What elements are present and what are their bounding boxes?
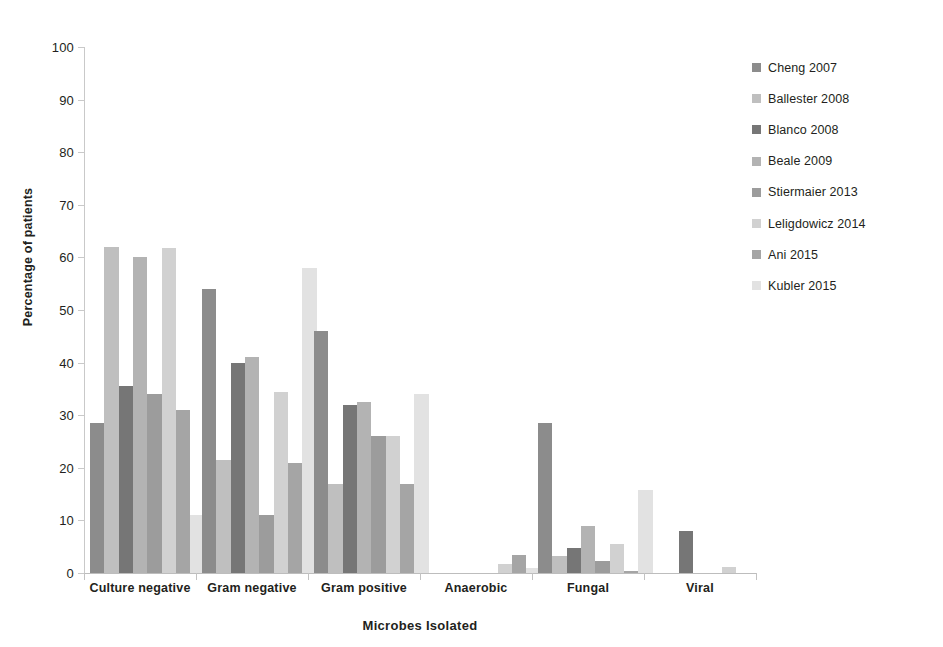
bar[interactable] [133,257,147,573]
legend-label: Beale 2009 [768,154,832,168]
x-axis-category-label: Gram negative [196,581,308,595]
bar[interactable] [274,392,288,573]
bar[interactable] [245,357,259,573]
bar-group: Gram negative [196,47,308,573]
bar[interactable] [202,289,216,573]
bar[interactable] [498,564,512,573]
bar-group: Anaerobic [420,47,532,573]
bar[interactable] [162,248,176,573]
bar[interactable] [610,544,624,573]
legend-label: Cheng 2007 [768,61,837,75]
legend-label: Kubler 2015 [768,279,837,293]
bar[interactable] [679,531,693,573]
bar[interactable] [90,423,104,573]
x-tick-mark [308,573,309,580]
x-axis-category-label: Culture negative [84,581,196,595]
bar[interactable] [314,331,328,573]
x-axis-category-label: Fungal [532,581,644,595]
bar[interactable] [104,247,118,573]
x-tick-mark [196,573,197,580]
bar[interactable] [400,484,414,573]
bar-group-bars [650,47,764,573]
bar[interactable] [119,386,133,573]
y-tick-label: 40 [28,357,74,370]
x-axis-category-label: Gram positive [308,581,420,595]
bar-group: Viral [644,47,756,573]
legend-item[interactable]: Kubler 2015 [752,270,937,301]
legend-item[interactable]: Leligdowicz 2014 [752,208,937,239]
y-tick-label: 10 [28,514,74,527]
legend-label: Blanco 2008 [768,123,839,137]
bar-chart: Percentage of patients Microbes Isolated… [0,0,943,647]
bar[interactable] [581,526,595,573]
legend-swatch-icon [752,250,761,259]
bar[interactable] [231,363,245,573]
bar[interactable] [552,556,566,573]
x-axis-title: Microbes Isolated [84,618,756,633]
x-tick-mark [420,573,421,580]
bar[interactable] [176,410,190,573]
bar[interactable] [386,436,400,573]
legend-swatch-icon [752,63,761,72]
y-tick-label: 70 [28,199,74,212]
legend-item[interactable]: Cheng 2007 [752,52,937,83]
legend-swatch-icon [752,281,761,290]
legend-label: Stiermaier 2013 [768,185,858,199]
x-axis-category-label: Anaerobic [420,581,532,595]
y-tick-label: 50 [28,304,74,317]
bar[interactable] [343,405,357,573]
bar[interactable] [512,555,526,573]
y-tick-label: 60 [28,251,74,264]
x-tick-mark [756,573,757,580]
bar[interactable] [538,423,552,573]
bar[interactable] [147,394,161,573]
bar[interactable] [259,515,273,573]
x-tick-mark [644,573,645,580]
legend-item[interactable]: Stiermaier 2013 [752,177,937,208]
y-tick-label: 80 [28,146,74,159]
bar-group-bars [90,47,204,573]
bar-group-bars [202,47,316,573]
x-tick-mark [532,573,533,580]
legend-swatch-icon [752,125,761,134]
plot-area: Culture negativeGram negativeGram positi… [84,47,756,573]
bar[interactable] [722,567,736,573]
bar[interactable] [216,460,230,573]
legend: Cheng 2007Ballester 2008Blanco 2008Beale… [752,52,937,302]
bar-group-bars [538,47,652,573]
y-tick-label: 0 [28,567,74,580]
bar[interactable] [328,484,342,573]
bar[interactable] [624,571,638,573]
bar[interactable] [567,548,581,573]
y-tick-label: 90 [28,94,74,107]
x-tick-mark [84,573,85,580]
y-tick-label: 20 [28,462,74,475]
bar[interactable] [595,561,609,573]
legend-swatch-icon [752,188,761,197]
bar-group: Gram positive [308,47,420,573]
legend-label: Ani 2015 [768,248,818,262]
legend-label: Ballester 2008 [768,92,849,106]
y-tick-label: 30 [28,409,74,422]
legend-item[interactable]: Blanco 2008 [752,114,937,145]
legend-swatch-icon [752,94,761,103]
bar-group-bars [314,47,428,573]
legend-swatch-icon [752,219,761,228]
bar[interactable] [371,436,385,573]
y-tick-label: 100 [28,41,74,54]
legend-item[interactable]: Ani 2015 [752,239,937,270]
legend-item[interactable]: Beale 2009 [752,146,937,177]
x-axis-category-label: Viral [644,581,756,595]
legend-item[interactable]: Ballester 2008 [752,83,937,114]
bar[interactable] [357,402,371,573]
bar[interactable] [288,463,302,573]
bar-group-bars [426,47,540,573]
bar-group: Culture negative [84,47,196,573]
legend-swatch-icon [752,157,761,166]
bar-group: Fungal [532,47,644,573]
legend-label: Leligdowicz 2014 [768,217,866,231]
